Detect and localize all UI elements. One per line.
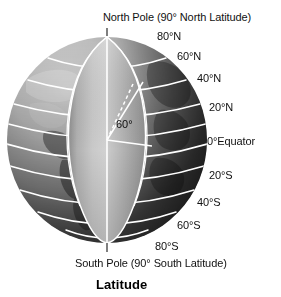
north-pole-label: North Pole (90° North Latitude) <box>103 12 251 23</box>
latitude-label-20n: 20°N <box>209 102 233 113</box>
latitude-label-60n: 60°N <box>177 51 201 62</box>
latitude-label-60s: 60°S <box>177 220 201 231</box>
south-pole-label: South Pole (90° South Latitude) <box>75 258 227 269</box>
latitude-label-40s: 40°S <box>197 197 221 208</box>
angle-label-60: 60° <box>116 118 133 130</box>
latitude-label-40n: 40°N <box>197 73 221 84</box>
latitude-label-equator: 0°Equator <box>207 136 255 147</box>
latitude-label-80n: 80°N <box>157 31 181 42</box>
figure-caption: Latitude <box>96 277 147 292</box>
latitude-diagram: North Pole (90° North Latitude) 60° 80°N… <box>0 0 281 297</box>
latitude-label-20s: 20°S <box>209 170 233 181</box>
latitude-label-80s: 80°S <box>155 241 179 252</box>
globe-illustration <box>0 0 281 297</box>
